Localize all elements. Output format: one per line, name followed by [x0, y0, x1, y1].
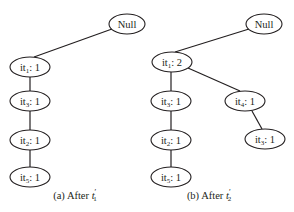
node-it5: it5: 1 — [10, 167, 50, 187]
node-count: : 1 — [29, 62, 40, 73]
node-it1: it1: 1 — [10, 57, 50, 77]
tree-b: Null it1: 2 it3: 1 it2: 1 it5: 1 it4: 1 … — [151, 14, 285, 203]
node-label: Null — [118, 19, 137, 30]
node-count: : 1 — [170, 135, 181, 146]
node-it2: it2: 1 — [10, 130, 50, 150]
edge-it1-it4 — [188, 68, 240, 91]
edge-null-it1 — [175, 29, 249, 52]
node-null: Null — [109, 14, 145, 34]
node-count: : 1 — [264, 134, 275, 145]
node-it1: it1: 2 — [152, 52, 192, 72]
node-count: : 1 — [29, 135, 40, 146]
node-label: Null — [255, 19, 274, 30]
node-it5: it5: 1 — [151, 167, 191, 187]
node-null: Null — [246, 14, 282, 34]
node-count: : 1 — [170, 96, 181, 107]
caption-b: (b) After t′2 — [187, 188, 232, 203]
node-it3-branch: it3: 1 — [245, 129, 285, 149]
node-count: : 1 — [29, 172, 40, 183]
edge-it4-it3 — [252, 111, 262, 129]
node-it4: it4: 1 — [225, 91, 265, 111]
fp-tree-diagram: Null it1: 1 it3: 1 it2: 1 it5: 1 (a) Aft… — [0, 0, 294, 212]
node-count: : 2 — [171, 57, 182, 68]
node-count: : 1 — [170, 172, 181, 183]
node-it3: it3: 1 — [10, 91, 50, 111]
tree-a: Null it1: 1 it3: 1 it2: 1 it5: 1 (a) Aft… — [10, 14, 145, 203]
node-count: : 1 — [244, 96, 255, 107]
caption-a: (a) After t′1 — [53, 188, 97, 203]
node-it3: it3: 1 — [151, 91, 191, 111]
edge-null-it1 — [34, 29, 112, 57]
node-count: : 1 — [29, 96, 40, 107]
node-it2: it2: 1 — [151, 130, 191, 150]
